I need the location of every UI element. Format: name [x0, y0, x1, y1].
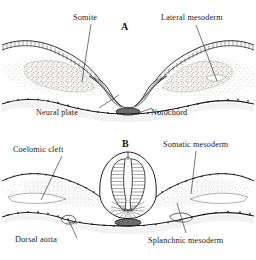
neural-tube-outer-b: [100, 152, 156, 219]
label-coelomic-cleft: Coelomic cleft: [13, 146, 64, 154]
label-lateral-mesoderm: Lateral mesoderm: [161, 14, 223, 22]
label-splanchnic-mesoderm: Splanchnic mesoderm: [148, 237, 223, 245]
label-somatic-mesoderm: Somatic mesoderm: [163, 141, 228, 149]
label-notochord: Notochord: [151, 109, 187, 117]
panel-letter-a: A: [121, 21, 128, 32]
label-dorsal-aorta: Dorsal aorta: [15, 236, 57, 244]
label-neural-plate: Neural plate: [36, 109, 78, 117]
panel-b-drawing: [2, 151, 254, 238]
embryo-cross-section-figure: [0, 0, 256, 260]
label-somite: Somite: [73, 14, 97, 22]
panel-letter-b: B: [122, 138, 129, 149]
